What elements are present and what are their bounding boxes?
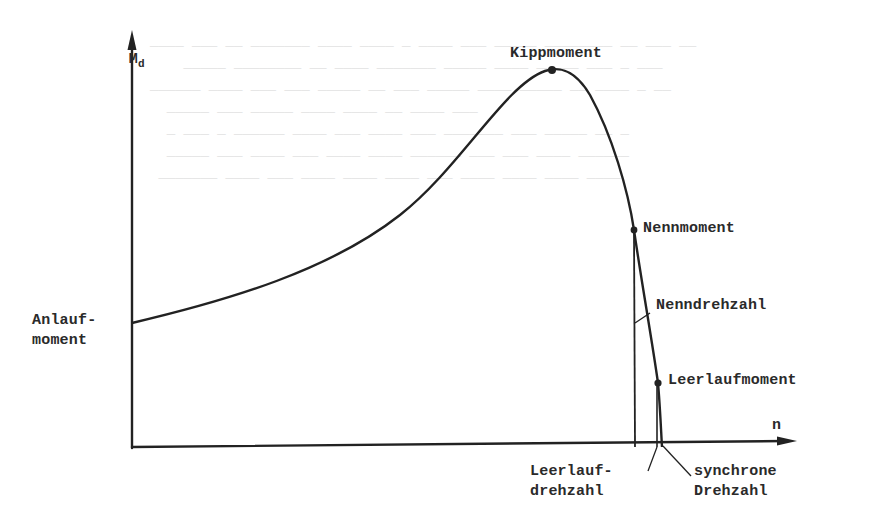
nenndrehzahl-line: [634, 230, 635, 447]
x-axis: [132, 441, 785, 447]
nennmoment-label: Nennmoment: [643, 219, 735, 239]
y-axis-label-sub: d: [138, 58, 145, 70]
nennmoment-point: [631, 227, 638, 234]
leerlaufdrehzahl-leader: [648, 447, 657, 471]
kippmoment-point: [548, 66, 556, 74]
x-axis-label: n: [772, 416, 781, 436]
torque-speed-diagram: ──── ─── ── ─────── ──── ──── ─ ──── ───…: [0, 0, 876, 528]
kippmoment-label: Kippmoment: [510, 44, 602, 64]
synchrone-drehzahl-label: synchrone Drehzahl: [694, 462, 777, 502]
synchrone-drehzahl-leader: [663, 446, 691, 476]
leerlaufmoment-point: [654, 379, 661, 386]
anlaufmoment-label: Anlauf- moment: [32, 311, 96, 351]
nenndrehzahl-label: Nenndrehzahl: [656, 296, 766, 316]
x-axis-arrowhead-icon: [777, 437, 797, 446]
y-axis-label-main: M: [129, 51, 138, 68]
torque-speed-curve: [132, 69, 662, 447]
y-axis-label: Md: [92, 30, 145, 90]
leerlaufdrehzahl-label: Leerlauf- drehzahl: [530, 462, 613, 502]
leerlaufmoment-label: Leerlaufmoment: [668, 371, 797, 391]
